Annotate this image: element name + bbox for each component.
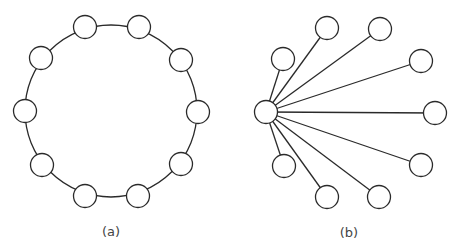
leaf-node xyxy=(316,17,339,40)
ring-node xyxy=(74,16,97,39)
ring-node xyxy=(30,47,53,70)
leaf-node xyxy=(316,186,339,209)
star-topology-panel xyxy=(255,17,447,209)
ring-node xyxy=(170,49,193,72)
leaf-node xyxy=(410,50,433,73)
ring-node xyxy=(74,185,97,208)
hub-node xyxy=(255,101,278,124)
star-link xyxy=(266,28,327,112)
leaf-node xyxy=(273,155,296,178)
leaf-node xyxy=(369,18,392,41)
leaf-node xyxy=(424,102,447,125)
ring-node xyxy=(14,100,37,123)
network-topology-diagram xyxy=(0,0,458,250)
ring-topology-panel xyxy=(14,16,210,208)
caption-b: (b) xyxy=(340,225,358,240)
caption-a: (a) xyxy=(102,224,120,239)
ring-node xyxy=(187,101,210,124)
ring-node xyxy=(170,153,193,176)
figure: (a) (b) xyxy=(0,0,458,250)
leaf-node xyxy=(410,154,433,177)
ring-node xyxy=(127,185,150,208)
ring-node xyxy=(128,16,151,39)
star-link xyxy=(266,112,327,197)
leaf-node xyxy=(272,48,295,71)
star-link xyxy=(266,112,435,113)
ring-node xyxy=(31,154,54,177)
leaf-node xyxy=(368,186,391,209)
